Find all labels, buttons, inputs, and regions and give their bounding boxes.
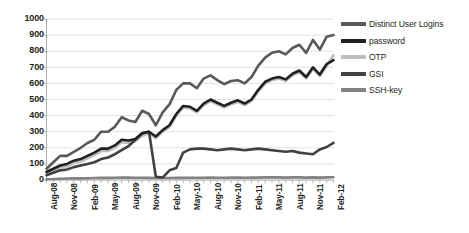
legend-label: password [369, 36, 405, 46]
x-axis-tick-label: Feb-12 [337, 184, 346, 210]
x-axis-tick-label: Aug-09 [132, 183, 141, 210]
legend-swatch-icon [341, 22, 366, 26]
x-axis-tick-label: Aug-08 [50, 183, 59, 210]
legend-label: Distinct User Logins [369, 19, 443, 29]
legend-swatch-icon [341, 72, 366, 76]
x-axis-tick-label: May-10 [193, 183, 202, 210]
legend-swatch-icon [341, 88, 366, 92]
x-axis-tick-label: Aug-11 [296, 183, 305, 210]
x-axis-tick-label: May-11 [275, 183, 284, 210]
x-axis-tick-label: Feb-10 [173, 184, 182, 210]
x-axis-tick-label: May-09 [111, 183, 120, 210]
legend-swatch-icon [341, 39, 366, 43]
chart-legend: Distinct User LoginspasswordOTPGSISSH-ke… [341, 16, 469, 99]
x-axis-tick-label: Nov-11 [316, 184, 325, 210]
legend-label: GSI [369, 69, 384, 79]
x-axis-tick-label: Nov-08 [70, 183, 79, 210]
legend-swatch-icon [341, 55, 366, 59]
legend-item-gsi: GSI [341, 66, 469, 83]
chart-container: 10009008007006005004003002001000 Aug-08N… [0, 0, 469, 233]
x-axis-tick-label: Feb-11 [255, 185, 264, 210]
x-axis-tick-label: Aug-10 [214, 183, 223, 210]
x-axis-tick-label: Feb-09 [91, 184, 100, 210]
legend-label: SSH-key [369, 85, 402, 95]
x-axis-tick-label: Nov-09 [152, 183, 161, 210]
legend-item-otp: OTP [341, 49, 469, 66]
legend-item-distinct-user-logins: Distinct User Logins [341, 16, 469, 33]
legend-label: OTP [369, 52, 386, 62]
x-axis-tick-label: Nov-10 [234, 183, 243, 210]
legend-item-password: password [341, 33, 469, 50]
legend-item-ssh-key: SSH-key [341, 82, 469, 99]
